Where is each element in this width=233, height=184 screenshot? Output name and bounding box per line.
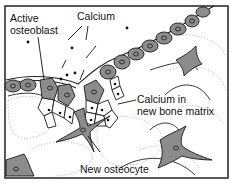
label-active-osteoblast-1: Active — [10, 12, 39, 24]
label-active-osteoblast-2: osteoblast — [10, 24, 58, 36]
label-calcium-matrix-2: new bone matrix — [137, 105, 215, 117]
label-calcium-matrix-1: Calcium in — [137, 93, 186, 105]
bone-formation-diagram: Active osteoblast Calcium Calcium in new… — [0, 0, 233, 184]
label-new-osteocyte: New osteocyte — [80, 163, 149, 175]
label-calcium: Calcium — [77, 10, 115, 22]
